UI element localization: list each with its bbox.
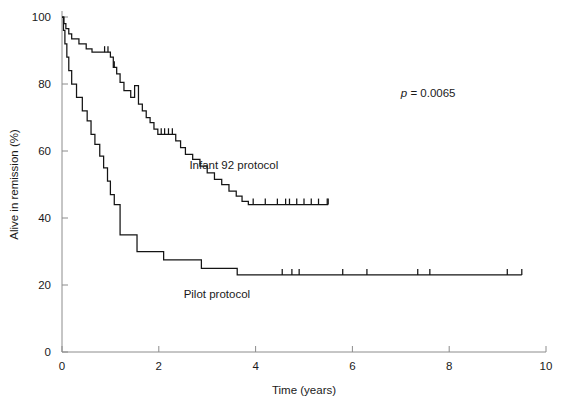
y-tick-label-0: 0 [45,346,51,358]
labels-group: Time (years) Alive in remission (%) Infa… [8,87,455,396]
survival-chart: 0246810 020406080100 Time (years) Alive … [0,0,570,402]
x-tick-label-4: 4 [252,360,259,372]
curve-pilot-protocol [62,17,522,275]
curve-infant-92-protocol [62,17,328,205]
curves-group [62,17,522,275]
x-tick-label-2: 2 [156,360,162,372]
series-label-pilot-protocol: Pilot protocol [184,288,250,300]
x-tick-label-0: 0 [59,360,65,372]
x-axis-ticks: 0246810 [59,346,553,372]
y-tick-label-20: 20 [38,279,51,291]
y-tick-label-40: 40 [38,212,51,224]
y-axis-ticks: 020406080100 [32,11,68,358]
x-axis-title: Time (years) [272,384,336,396]
y-tick-label-60: 60 [38,145,51,157]
censor-marks-pilot-protocol [282,269,522,275]
y-tick-label-80: 80 [38,78,51,90]
x-tick-label-10: 10 [540,360,553,372]
y-axis-title: Alive in remission (%) [8,129,20,240]
x-tick-label-6: 6 [349,360,355,372]
x-tick-label-8: 8 [446,360,452,372]
censor-marks-infant-92-protocol [105,46,329,204]
y-tick-label-100: 100 [32,11,51,23]
series-label-infant-92-protocol: Infant 92 protocol [189,159,278,171]
kaplan-meier-figure: 0246810 020406080100 Time (years) Alive … [0,0,570,402]
p-value-number: = 0.0065 [407,87,455,99]
p-value-annotation: p = 0.0065 [400,87,456,99]
